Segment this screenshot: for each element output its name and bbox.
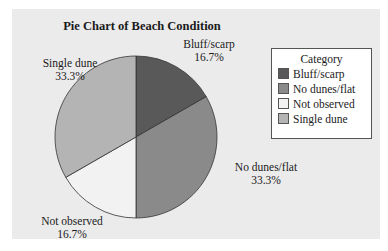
legend-label: No dunes/flat — [293, 83, 355, 95]
legend-title: Category — [272, 53, 371, 65]
slice-label-name: Not observed — [27, 215, 117, 228]
legend-label: Single dune — [293, 113, 348, 125]
slice-label-single-dune: Single dune 33.3% — [30, 57, 110, 83]
slice-label-pct: 16.7% — [27, 228, 117, 241]
legend-swatch — [278, 98, 289, 109]
legend-label: Bluff/scarp — [293, 68, 345, 80]
legend-item-single-dune: Single dune — [272, 111, 371, 126]
slice-label-name: Bluff/scarp — [164, 38, 254, 51]
legend-item-no-dunes-flat: No dunes/flat — [272, 81, 371, 96]
slice-label-name: Single dune — [30, 57, 110, 70]
chart-panel: Pie Chart of Beach Condition Bluff/scarp… — [12, 9, 380, 239]
legend-item-not-observed: Not observed — [272, 96, 371, 111]
legend-item-bluff-scarp: Bluff/scarp — [272, 66, 371, 81]
legend-swatch — [278, 83, 289, 94]
slice-label-pct: 33.3% — [216, 174, 316, 187]
slice-label-no-dunes-flat: No dunes/flat 33.3% — [216, 161, 316, 187]
legend: Category Bluff/scarp No dunes/flat Not o… — [271, 48, 372, 139]
slice-label-pct: 16.7% — [164, 51, 254, 64]
legend-label: Not observed — [293, 98, 355, 110]
slice-label-name: No dunes/flat — [216, 161, 316, 174]
slice-label-not-observed: Not observed 16.7% — [27, 215, 117, 241]
legend-swatch — [278, 113, 289, 124]
slice-label-pct: 33.3% — [30, 70, 110, 83]
legend-swatch — [278, 68, 289, 79]
slice-label-bluff-scarp: Bluff/scarp 16.7% — [164, 38, 254, 64]
